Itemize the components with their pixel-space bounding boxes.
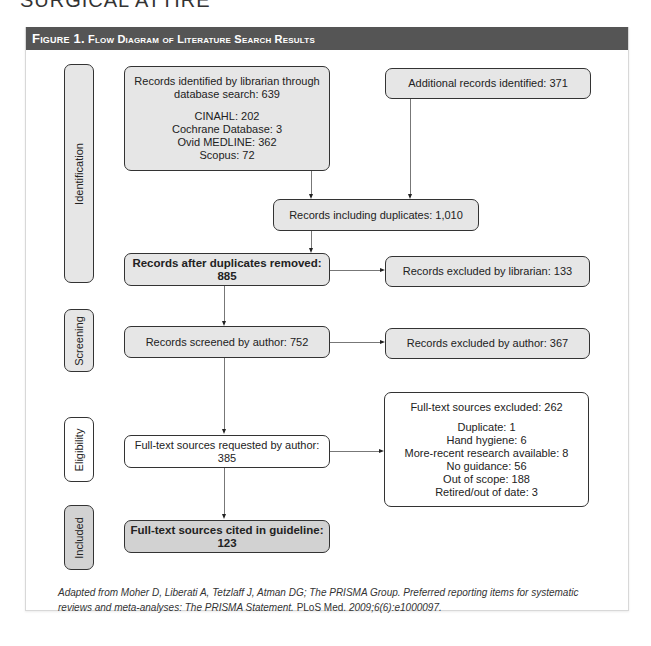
box-screened-author: Records screened by author: 752	[124, 326, 330, 358]
box-after-duplicates: Records after duplicates removed: 885	[124, 253, 330, 286]
box-text: Additional records identified: 371	[408, 77, 568, 90]
box-excluded-librarian: Records excluded by librarian: 133	[385, 256, 590, 287]
arrow-down-icon	[222, 514, 226, 519]
connector-line	[410, 99, 411, 195]
arrow-right-icon	[380, 340, 385, 344]
caption-journal: PLoS Med.	[297, 602, 346, 613]
phase-screening: Screening	[64, 309, 94, 372]
reason-item: Duplicate: 1	[457, 421, 515, 434]
connector-line	[330, 451, 379, 452]
phase-label: Included	[73, 517, 85, 559]
connector-line	[224, 286, 225, 322]
arrow-down-icon	[309, 194, 313, 199]
phase-identification: Identification	[64, 64, 94, 283]
caption-citation: 2009;6(6):e1000097.	[346, 602, 442, 613]
arrow-down-icon	[309, 248, 313, 253]
box-title: Full-text sources excluded: 262	[410, 401, 562, 414]
box-text: Records identified by librarian through	[134, 75, 319, 88]
figure-title: Flow Diagram of Literature Search Result…	[88, 33, 315, 45]
arrow-down-icon	[222, 321, 226, 326]
arrow-down-icon	[222, 429, 226, 434]
connector-line	[330, 270, 380, 271]
source-item: Scopus: 72	[199, 149, 254, 162]
reason-item: Retired/out of date: 3	[435, 486, 538, 499]
connector-line	[311, 171, 312, 195]
box-fulltext-requested: Full-text sources requested by author: 3…	[124, 435, 330, 468]
phase-label: Eligibility	[73, 428, 85, 471]
box-fulltext-excluded: Full-text sources excluded: 262 Duplicat…	[384, 392, 589, 507]
box-text: Records after duplicates removed: 885	[125, 257, 329, 283]
box-text: Records excluded by author: 367	[407, 337, 568, 350]
box-text: database search: 639	[174, 88, 280, 101]
box-text: Records screened by author: 752	[146, 336, 309, 349]
connector-line	[311, 231, 312, 249]
box-text: Full-text sources cited in guideline: 12…	[125, 524, 329, 550]
box-additional-records: Additional records identified: 371	[385, 68, 591, 99]
box-excluded-author: Records excluded by author: 367	[385, 328, 590, 359]
reason-item: No guidance: 56	[446, 460, 526, 473]
box-text: Records including duplicates: 1,010	[289, 209, 463, 222]
phase-included: Included	[64, 505, 94, 570]
reason-item: More-recent research available: 8	[405, 447, 569, 460]
box-including-duplicates: Records including duplicates: 1,010	[273, 199, 479, 231]
box-cited: Full-text sources cited in guideline: 12…	[124, 520, 330, 553]
connector-line	[330, 342, 380, 343]
connector-line	[224, 358, 225, 430]
arrow-right-icon	[380, 268, 385, 272]
box-text: Full-text sources requested by author: 3…	[125, 439, 329, 465]
phase-label: Screening	[73, 316, 85, 366]
reason-item: Hand hygiene: 6	[446, 434, 526, 447]
arrow-right-icon	[379, 449, 384, 453]
source-item: CINAHL: 202	[195, 110, 260, 123]
connector-line	[224, 468, 225, 515]
box-librarian-search: Records identified by librarian through …	[124, 66, 330, 171]
source-item: Cochrane Database: 3	[172, 123, 282, 136]
running-header: SURGICAL ATTIRE	[20, 0, 211, 10]
figure-title-bar: Figure 1. Flow Diagram of Literature Sea…	[26, 27, 628, 50]
figure-label: Figure 1.	[32, 31, 85, 46]
phase-eligibility: Eligibility	[64, 417, 94, 482]
box-text: Records excluded by librarian: 133	[403, 265, 572, 278]
arrow-down-icon	[408, 194, 412, 199]
source-item: Ovid MEDLINE: 362	[177, 136, 276, 149]
reason-item: Out of scope: 188	[443, 473, 530, 486]
phase-label: Identification	[73, 143, 85, 205]
figure-caption: Adapted from Moher D, Liberati A, Tetzla…	[58, 585, 598, 615]
